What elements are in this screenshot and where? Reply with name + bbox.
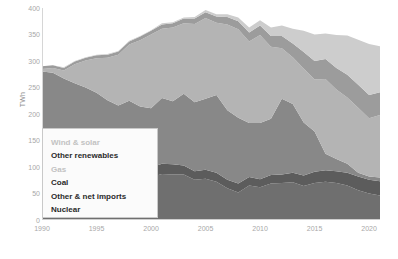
legend-item-label: Nuclear (51, 205, 80, 214)
stacked-area-chart: TWh 400350300250200150100500 19901995200… (0, 0, 398, 259)
legend-item-label: Coal (51, 178, 68, 187)
legend-item-other-renewables[interactable]: Other renewables (51, 149, 157, 162)
legend-item-coal[interactable]: Coal (51, 176, 157, 189)
x-axis-tick-label: 1990 (22, 225, 62, 232)
legend-item-label: Wind & solar (51, 138, 100, 147)
x-axis-tick-label: 2000 (131, 225, 171, 232)
y-axis-tick-label: 100 (14, 164, 40, 171)
x-axis-tick-label: 2015 (295, 225, 335, 232)
legend-item-gas[interactable]: Gas (51, 163, 157, 176)
legend-item-wind-solar[interactable]: Wind & solar (51, 136, 157, 149)
legend-item-label: Other renewables (51, 151, 118, 160)
y-axis-tick-label: 150 (14, 137, 40, 144)
legend-item-label: Gas (51, 165, 66, 174)
legend-item-nuclear[interactable]: Nuclear (51, 203, 157, 216)
x-axis-tick-label: 2005 (186, 225, 226, 232)
y-axis-tick-label: 50 (14, 190, 40, 197)
y-axis-tick-label: 350 (14, 31, 40, 38)
legend-item-other-net-imports[interactable]: Other & net imports (51, 190, 157, 203)
x-axis-tick-label: 2020 (349, 225, 389, 232)
x-axis-tick-label: 2010 (240, 225, 280, 232)
x-axis-ticks: 1990199520002005201020152020 (0, 221, 398, 241)
y-axis-tick-label: 300 (14, 58, 40, 65)
x-axis-tick-label: 1995 (77, 225, 117, 232)
y-axis-tick-label: 200 (14, 111, 40, 118)
chart-legend: Wind & solarOther renewablesGasCoalOther… (42, 128, 158, 218)
y-axis-tick-label: 250 (14, 84, 40, 91)
legend-item-label: Other & net imports (51, 192, 126, 201)
y-axis-tick-label: 400 (14, 5, 40, 12)
